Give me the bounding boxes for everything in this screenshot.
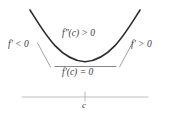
axis-point-c-label: c <box>82 101 86 110</box>
second-derivative-label: f″(c) > 0 <box>62 29 95 39</box>
critical-point-derivative-label: f′(c) = 0 <box>62 68 93 78</box>
right-branch-derivative-label: f′ > 0 <box>131 40 152 50</box>
figure-container: f′ < 0 f″(c) > 0 f′ > 0 f′(c) = 0 c <box>0 0 169 119</box>
left-tangent-line <box>38 43 51 67</box>
left-branch-derivative-label: f′ < 0 <box>8 40 29 50</box>
